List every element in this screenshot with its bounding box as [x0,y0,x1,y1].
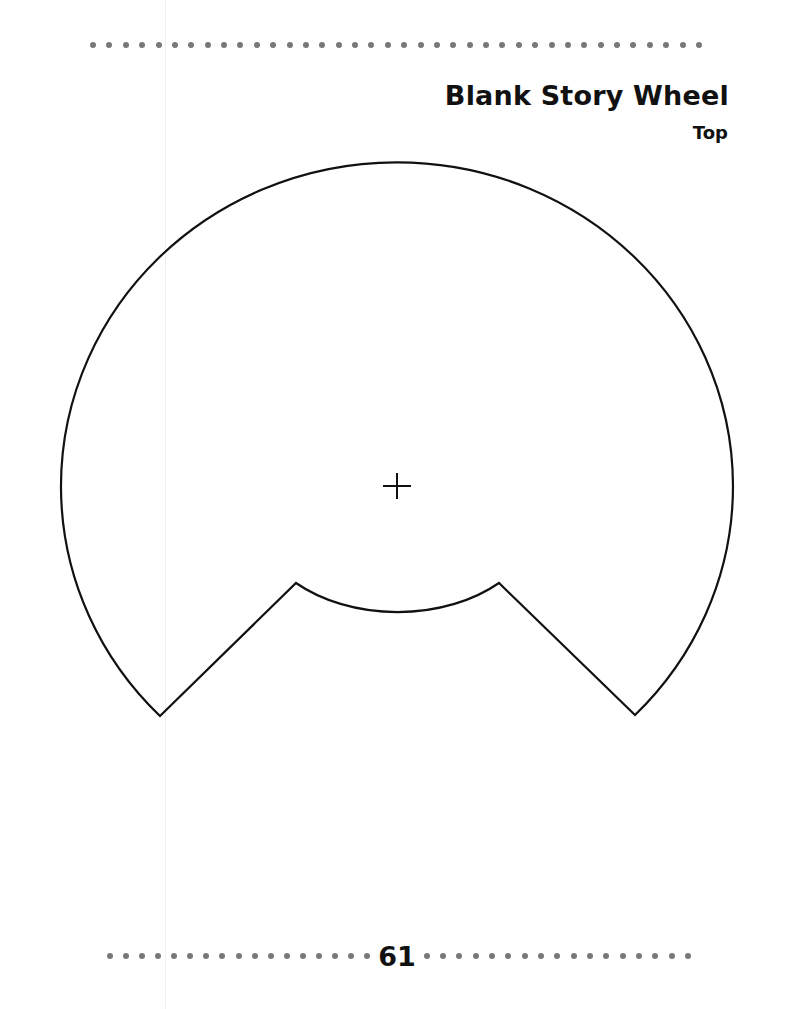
dot [316,953,322,959]
dot [554,953,560,959]
story-wheel-top [0,0,786,1009]
dot [636,953,642,959]
dot [685,953,691,959]
dot [332,953,338,959]
dot [219,953,225,959]
dot [505,953,511,959]
dot [603,953,609,959]
dot [155,953,161,959]
dot [669,953,675,959]
dot [252,953,258,959]
dot [187,953,193,959]
wheel-outline [61,162,733,716]
dot [300,953,306,959]
dot [456,953,462,959]
dot [284,953,290,959]
dot [473,953,479,959]
dot [171,953,177,959]
dot [571,953,577,959]
dot [268,953,274,959]
dot [203,953,209,959]
dot [348,953,354,959]
crosshair-icon [383,473,411,499]
footer: 61 [107,938,691,974]
dot [538,953,544,959]
dot [139,953,145,959]
dot [440,953,446,959]
dot [587,953,593,959]
footer-dots-left [107,953,370,959]
dot [364,953,370,959]
footer-dots-right [424,953,691,959]
dot [107,953,113,959]
dot [652,953,658,959]
dot [620,953,626,959]
dot [489,953,495,959]
dot [123,953,129,959]
page-number: 61 [378,943,416,970]
dot [424,953,430,959]
dot [522,953,528,959]
dot [236,953,242,959]
